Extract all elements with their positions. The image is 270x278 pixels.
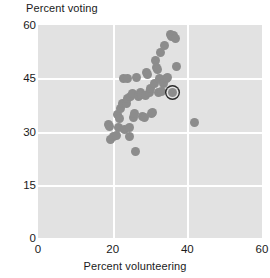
data-point — [153, 65, 162, 74]
plot-area — [38, 25, 262, 238]
x-tick-label: 40 — [172, 243, 202, 255]
data-point — [163, 73, 172, 82]
scatter-chart: Percent voting 015304560 0204060 Percent… — [0, 0, 270, 278]
y-tick-label: 60 — [2, 19, 36, 31]
highlighted-data-point[interactable] — [168, 88, 177, 97]
data-point — [157, 87, 166, 96]
data-point — [190, 118, 199, 127]
x-tick-label: 60 — [247, 243, 270, 255]
data-point — [172, 62, 181, 71]
data-point — [125, 132, 134, 141]
data-point — [160, 41, 169, 50]
data-point — [171, 34, 180, 43]
x-tick-label: 0 — [23, 243, 53, 255]
x-tick-label: 20 — [98, 243, 128, 255]
y-tick-label: 45 — [2, 72, 36, 84]
y-axis-title: Percent voting — [26, 2, 98, 14]
gridline-horizontal — [38, 185, 262, 187]
y-tick-label: 30 — [2, 126, 36, 138]
gridline-horizontal — [38, 132, 262, 134]
data-point — [132, 73, 141, 82]
data-point — [148, 108, 157, 117]
data-point — [112, 131, 121, 140]
data-point — [131, 147, 140, 156]
x-axis-title: Percent volunteering — [0, 260, 270, 272]
y-axis-tick-labels: 015304560 — [0, 0, 36, 278]
data-point — [115, 114, 124, 123]
y-tick-label: 15 — [2, 179, 36, 191]
